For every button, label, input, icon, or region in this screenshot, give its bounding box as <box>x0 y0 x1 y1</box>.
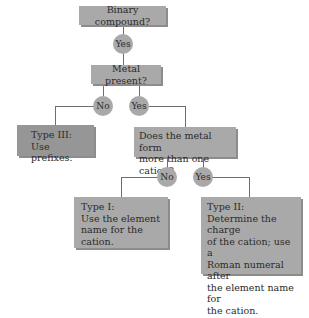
node-metal-present: Metal present? <box>91 65 161 84</box>
node-label: Type II: Determine the charge of the cat… <box>201 197 301 318</box>
answer-no-metal: No <box>93 96 113 116</box>
connector-no-type3-h <box>55 106 94 107</box>
node-type-i: Type I: Use the element name for the cat… <box>74 197 168 248</box>
answer-no-cation: No <box>157 167 177 187</box>
node-type-iii: Type III: Use prefixes. <box>17 125 94 156</box>
node-label: Binary compound? <box>79 4 166 27</box>
connector-yes-cation-v <box>185 106 186 127</box>
node-label: Type III: Use prefixes. <box>17 125 94 167</box>
node-type-ii: Type II: Determine the charge of the cat… <box>201 197 301 274</box>
connector-no-type3-v <box>55 106 56 125</box>
answer-yes-cation: Yes <box>193 167 213 187</box>
connector-yes-type2-v <box>249 177 250 197</box>
connector-no-type1-v <box>121 177 122 197</box>
node-more-than-one-cation: Does the metal form more than one cation… <box>134 127 236 157</box>
answer-yes-metal: Yes <box>129 96 149 116</box>
node-binary-compound: Binary compound? <box>79 6 166 25</box>
node-label: Does the metal form more than one cation… <box>134 127 236 179</box>
node-label: Type I: Use the element name for the cat… <box>74 197 168 251</box>
node-label: Metal present? <box>91 63 161 86</box>
connector-yes-cation-h <box>149 106 186 107</box>
answer-yes-binary: Yes <box>113 34 133 54</box>
